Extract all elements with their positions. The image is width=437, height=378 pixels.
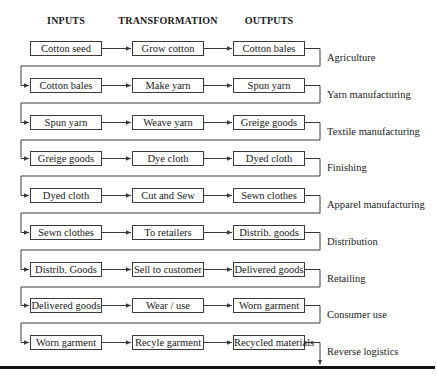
box-input: Sewn clothes: [30, 225, 102, 240]
box-output: Distrib. goods: [233, 225, 305, 240]
box-output: Worn garment: [233, 298, 305, 313]
stage-label: Finishing: [327, 162, 367, 173]
box-output: Spun yarn: [233, 78, 305, 93]
box-transformation: Cut and Sew: [132, 188, 204, 203]
box-input: Distrib. Goods: [30, 262, 102, 277]
box-transformation: Recyle garment: [132, 335, 204, 350]
stage-label: Yarn manufacturing: [327, 89, 411, 100]
stage-label: Retailing: [327, 273, 366, 284]
box-input: Worn garment: [30, 335, 102, 350]
box-transformation: Weave yarn: [132, 115, 204, 130]
box-input: Cotton seed: [30, 41, 102, 56]
box-transformation: Dye cloth: [132, 151, 204, 166]
stage-label: Apparel manufacturing: [327, 199, 425, 210]
box-transformation: Grow cotton: [132, 41, 204, 56]
box-output: Delivered goods: [233, 262, 305, 277]
box-output: Cotton bales: [233, 41, 305, 56]
box-output: Dyed cloth: [233, 151, 305, 166]
box-input: Cotton bales: [30, 78, 102, 93]
stage-label: Distribution: [327, 236, 378, 247]
box-transformation: Make yarn: [132, 78, 204, 93]
box-transformation: Sell to customer: [132, 262, 204, 277]
stage-label: Agriculture: [327, 52, 375, 63]
box-input: Spun yarn: [30, 115, 102, 130]
box-output: Greige goods: [233, 115, 305, 130]
box-input: Greige goods: [30, 151, 102, 166]
stage-label: Textile manufacturing: [327, 126, 420, 137]
box-transformation: To retailers: [132, 225, 204, 240]
stage-label: Reverse logistics: [327, 346, 398, 357]
box-output: Sewn clothes: [233, 188, 305, 203]
bottom-rule: [0, 366, 435, 369]
box-output: Recycled materials: [233, 335, 305, 350]
box-input: Dyed cloth: [30, 188, 102, 203]
box-input: Delivered goods: [30, 298, 102, 313]
box-transformation: Wear / use: [132, 298, 204, 313]
stage-label: Consumer use: [327, 309, 387, 320]
